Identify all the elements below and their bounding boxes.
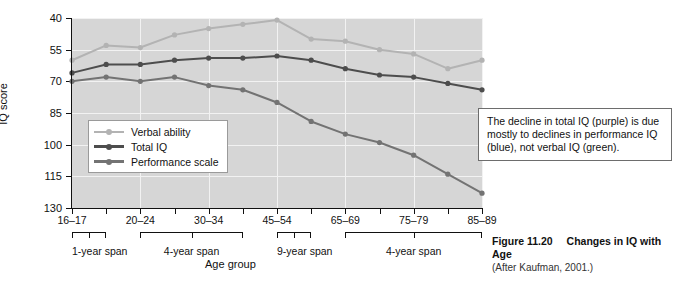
span-label: 4-year span <box>345 245 482 257</box>
x-tick-mark <box>380 209 381 214</box>
series-line <box>72 56 482 90</box>
span-label: 4-year span <box>140 245 243 257</box>
data-point <box>445 81 450 86</box>
legend: Verbal ability Total IQ Performance scal… <box>88 120 228 173</box>
data-point <box>445 172 450 177</box>
y-axis-label: IQ score <box>0 83 9 125</box>
series-line <box>72 20 482 69</box>
legend-swatch-verbal-ability <box>94 127 124 137</box>
x-tick-mark <box>448 209 449 214</box>
data-point <box>309 58 314 63</box>
x-tick-label: 16–17 <box>57 214 86 226</box>
data-point <box>343 132 348 137</box>
legend-label: Verbal ability <box>131 126 191 138</box>
data-point <box>343 66 348 71</box>
data-point <box>206 83 211 88</box>
y-tick-label: 40 <box>30 13 62 23</box>
data-point <box>411 153 416 158</box>
data-point <box>479 191 484 196</box>
x-tick-mark <box>243 209 244 214</box>
annotation-callout: The decline in total IQ (purple) is due … <box>478 108 672 161</box>
y-tick-label: 55 <box>30 45 62 55</box>
data-point <box>104 75 109 80</box>
y-axis-line <box>71 18 72 208</box>
data-point <box>274 18 279 23</box>
legend-swatch-total-iq <box>94 142 124 152</box>
y-tick-label: 130 <box>30 203 62 213</box>
data-point <box>172 58 177 63</box>
data-point <box>172 75 177 80</box>
span-bracket <box>72 232 106 243</box>
y-tick-label: 85 <box>30 108 62 118</box>
legend-label: Total IQ <box>131 141 167 153</box>
data-point <box>479 58 484 63</box>
x-axis-title: Age group <box>205 258 256 270</box>
data-point <box>206 56 211 61</box>
data-point <box>411 51 416 56</box>
series-total-iq <box>69 53 484 92</box>
x-tick-label: 20–24 <box>126 214 155 226</box>
plot-area <box>72 18 482 208</box>
legend-item: Total IQ <box>94 139 219 154</box>
data-point <box>309 37 314 42</box>
data-point <box>240 87 245 92</box>
figure-root: IQ score 13011510085705540 16–1720–2430–… <box>0 0 681 282</box>
data-series-layer <box>72 18 482 208</box>
data-point <box>138 79 143 84</box>
data-point <box>309 119 314 124</box>
data-point <box>172 32 177 37</box>
data-point <box>240 22 245 27</box>
x-tick-mark <box>106 209 107 214</box>
data-point <box>274 53 279 58</box>
data-point <box>274 100 279 105</box>
span-bracket <box>277 232 311 243</box>
figure-caption: Figure 11.20 Changes in IQ with Age (Aft… <box>492 235 681 274</box>
data-point <box>206 26 211 31</box>
data-point <box>411 75 416 80</box>
x-tick-mark <box>175 209 176 214</box>
x-tick-label: 30–34 <box>194 214 223 226</box>
figure-number: Figure 11.20 <box>492 235 553 247</box>
data-point <box>138 62 143 67</box>
data-point <box>343 39 348 44</box>
data-point <box>377 47 382 52</box>
data-point <box>240 56 245 61</box>
span-bracket <box>140 232 243 243</box>
data-point <box>104 43 109 48</box>
legend-item: Verbal ability <box>94 124 219 139</box>
caption-source: (After Kaufman, 2001.) <box>492 262 681 274</box>
x-tick-mark <box>311 209 312 214</box>
x-tick-label: 65–69 <box>331 214 360 226</box>
data-point <box>138 45 143 50</box>
y-tick-label: 70 <box>30 76 62 86</box>
span-label: 1-year span <box>72 245 106 257</box>
data-point <box>479 87 484 92</box>
data-point <box>377 72 382 77</box>
span-bracket <box>345 232 482 243</box>
x-tick-label: 85–89 <box>467 214 496 226</box>
caption-title-line: Figure 11.20 Changes in IQ with Age <box>492 235 681 261</box>
y-tick-label: 115 <box>30 171 62 181</box>
legend-item: Performance scale <box>94 154 219 169</box>
series-verbal-ability <box>69 18 484 72</box>
data-point <box>377 140 382 145</box>
legend-label: Performance scale <box>131 156 219 168</box>
data-point <box>104 62 109 67</box>
x-tick-label: 75–79 <box>399 214 428 226</box>
data-point <box>445 66 450 71</box>
x-tick-label: 45–54 <box>262 214 291 226</box>
span-label: 9-year span <box>277 245 311 257</box>
y-tick-label: 100 <box>30 140 62 150</box>
legend-swatch-performance-scale <box>94 157 124 167</box>
